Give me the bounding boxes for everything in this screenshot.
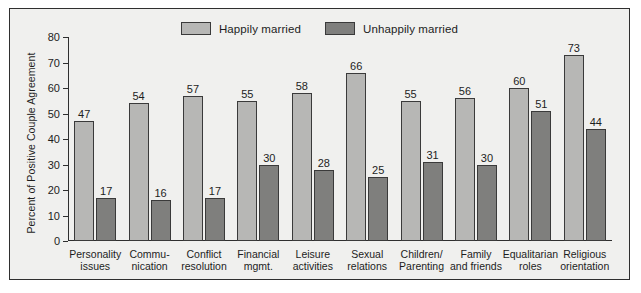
x-axis-category-line: orientation	[552, 260, 618, 272]
bar-happy: 47	[74, 121, 94, 241]
bar-unhappy: 51	[531, 111, 551, 241]
bar-value-label: 16	[154, 187, 166, 199]
bar-group: 4717Personalityissues	[68, 37, 122, 241]
y-tick-label: 0	[54, 235, 60, 247]
y-tick-label: 10	[48, 210, 60, 222]
y-axis-title-label: Percent of Positive Couple Agreement	[25, 52, 37, 233]
legend-item-2: Unhappily married	[325, 22, 458, 35]
x-axis-category-line: Religious	[552, 248, 618, 260]
bar-value-label: 55	[241, 88, 253, 100]
bar-value-label: 51	[535, 98, 547, 110]
bar-unhappy: 25	[368, 177, 388, 241]
chart-panel: Happily marriedUnhappily married Percent…	[9, 8, 630, 280]
chart-legend: Happily marriedUnhappily married	[10, 22, 629, 35]
y-tick-label: 40	[48, 133, 60, 145]
bar-value-label: 47	[78, 108, 90, 120]
bar-happy: 73	[564, 55, 584, 241]
y-tick-label: 20	[48, 184, 60, 196]
bar-value-label: 56	[459, 85, 471, 97]
y-tick-label: 60	[48, 82, 60, 94]
bar-group: 5828Leisureactivities	[286, 37, 340, 241]
bar-value-label: 55	[404, 88, 416, 100]
bar-unhappy: 30	[477, 165, 497, 242]
bar-value-label: 31	[426, 149, 438, 161]
bar-unhappy: 17	[205, 198, 225, 241]
bar-happy: 57	[183, 96, 203, 241]
bar-value-label: 57	[187, 83, 199, 95]
bar-value-label: 66	[350, 60, 362, 72]
legend-swatch-happy	[181, 22, 211, 35]
bar-value-label: 28	[318, 157, 330, 169]
bar-unhappy: 16	[151, 200, 171, 241]
x-axis-category-label: Religiousorientation	[552, 248, 618, 272]
legend-label: Happily married	[219, 23, 301, 35]
bar-unhappy: 44	[586, 129, 606, 241]
bar-value-label: 73	[568, 42, 580, 54]
y-tick-label: 50	[48, 108, 60, 120]
bar-group: 7344Religiousorientation	[558, 37, 612, 241]
legend-item-1: Happily married	[181, 22, 301, 35]
bar-group: 5530Financialmgmt.	[231, 37, 285, 241]
bar-group: 5531Children/Parenting	[394, 37, 448, 241]
bar-happy: 55	[237, 101, 257, 241]
bar-group: 5717Conflictresolution	[177, 37, 231, 241]
bar-unhappy: 28	[314, 170, 334, 241]
bar-value-label: 25	[372, 164, 384, 176]
bar-happy: 66	[346, 73, 366, 241]
bar-value-label: 58	[296, 80, 308, 92]
bar-group: 6625Sexualrelations	[340, 37, 394, 241]
bar-unhappy: 31	[423, 162, 443, 241]
bar-value-label: 30	[481, 152, 493, 164]
bar-happy: 60	[509, 88, 529, 241]
y-tick-label: 70	[48, 57, 60, 69]
bar-unhappy: 30	[259, 165, 279, 242]
bar-value-label: 30	[263, 152, 275, 164]
bar-happy: 58	[292, 93, 312, 241]
plot-area: 01020304050607080 4717Personalityissues5…	[68, 37, 612, 241]
bar-value-label: 17	[209, 185, 221, 197]
y-tick-label: 30	[48, 159, 60, 171]
bar-unhappy: 17	[96, 198, 116, 241]
bar-group: 5416Commu-nication	[122, 37, 176, 241]
bar-group: 6051Equalitarianroles	[503, 37, 557, 241]
bar-value-label: 54	[132, 90, 144, 102]
y-tick-label: 80	[48, 31, 60, 43]
bar-happy: 56	[455, 98, 475, 241]
bar-value-label: 17	[100, 185, 112, 197]
bar-value-label: 60	[513, 75, 525, 87]
legend-label: Unhappily married	[363, 23, 458, 35]
bar-happy: 54	[129, 103, 149, 241]
bar-happy: 55	[401, 101, 421, 241]
bar-value-label: 44	[590, 116, 602, 128]
bar-group: 5630Familyand friends	[449, 37, 503, 241]
chart-screenshot: Happily marriedUnhappily married Percent…	[0, 0, 641, 293]
legend-swatch-unhappy	[325, 22, 355, 35]
y-tick-mark	[63, 241, 68, 242]
y-axis-title: Percent of Positive Couple Agreement	[24, 45, 38, 241]
